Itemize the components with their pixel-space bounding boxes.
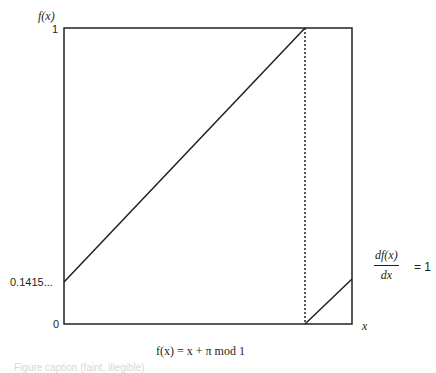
plot-frame <box>64 28 352 324</box>
function-branch-1 <box>64 28 305 282</box>
derivative-denominator: dx <box>374 266 399 283</box>
derivative-fraction: df(x) dx <box>374 248 399 283</box>
y-tick-0: 0 <box>53 319 59 330</box>
y-axis-label: f(x) <box>38 10 55 22</box>
y-tick-intercept: 0.1415... <box>10 277 53 288</box>
derivative-numerator: df(x) <box>374 248 399 266</box>
plot-canvas <box>0 0 436 373</box>
function-branch-2 <box>305 279 352 324</box>
figure-caption: Figure caption (faint, illegible) <box>14 362 145 373</box>
function-label: f(x) = x + π mod 1 <box>156 345 245 357</box>
derivative-value: = 1 <box>414 261 431 273</box>
y-tick-1: 1 <box>52 24 58 35</box>
x-axis-label: x <box>362 320 367 332</box>
